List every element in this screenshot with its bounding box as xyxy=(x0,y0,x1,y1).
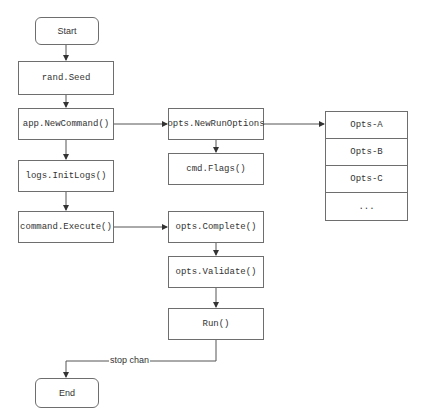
opts-row-c: Opts-C xyxy=(326,166,407,193)
opts-table: Opts-A Opts-B Opts-C ... xyxy=(325,111,408,221)
opts-row-more: ... xyxy=(326,193,407,220)
flags-label: cmd.Flags() xyxy=(186,164,245,174)
new-run-options-label: opts.NewRunOptions xyxy=(167,119,264,129)
opts-row-a: Opts-A xyxy=(326,112,407,139)
stop-chan-label: stop chan xyxy=(109,355,150,365)
new-run-options-node: opts.NewRunOptions xyxy=(168,108,264,140)
start-label: Start xyxy=(57,26,76,36)
complete-node: opts.Complete() xyxy=(168,211,264,243)
init-logs-label: logs.InitLogs() xyxy=(25,171,106,181)
run-label: Run() xyxy=(202,319,229,329)
execute-label: command.Execute() xyxy=(20,222,112,232)
end-node: End xyxy=(35,378,99,408)
start-node: Start xyxy=(35,17,99,45)
execute-node: command.Execute() xyxy=(18,211,114,243)
opts-row-b: Opts-B xyxy=(326,139,407,166)
new-command-label: app.NewCommand() xyxy=(23,119,109,129)
rand-seed-label: rand.Seed xyxy=(42,73,91,83)
validate-label: opts.Validate() xyxy=(175,267,256,277)
new-command-node: app.NewCommand() xyxy=(18,108,114,140)
complete-label: opts.Complete() xyxy=(175,222,256,232)
flags-node: cmd.Flags() xyxy=(168,153,264,185)
validate-node: opts.Validate() xyxy=(168,256,264,288)
end-label: End xyxy=(59,388,75,398)
run-node: Run() xyxy=(168,308,264,340)
init-logs-node: logs.InitLogs() xyxy=(18,160,114,192)
rand-seed-node: rand.Seed xyxy=(18,61,114,95)
